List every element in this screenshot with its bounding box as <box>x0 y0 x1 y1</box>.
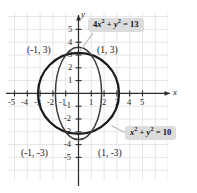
x-tick-label-2: 2 <box>102 97 106 107</box>
y-axis-label: y <box>81 9 85 19</box>
y-tick-label-4: 4 <box>68 37 72 47</box>
x-axis-arrow <box>165 91 171 96</box>
x-tick-label--4: -4 <box>21 97 28 107</box>
callout-circle-plus: + <box>137 127 146 137</box>
y-tick-label--5: -5 <box>64 152 71 162</box>
point-label-lower-right: (1, -3) <box>98 148 122 158</box>
y-tick-label-1: 1 <box>68 75 72 85</box>
x-tick-label--5: -5 <box>8 97 15 107</box>
x-tick-label--3: -3 <box>34 97 41 107</box>
x-tick-label-5: 5 <box>140 97 144 107</box>
callout-circle-equals: = <box>154 127 163 137</box>
x-axis-label: x <box>173 87 177 97</box>
x-tick-label-4: 4 <box>127 97 131 107</box>
callout-ellipse-rhs: 13 <box>130 19 139 29</box>
y-tick-label--3: -3 <box>64 126 71 136</box>
callout-ellipse-plus: + <box>105 19 114 29</box>
y-tick-label--2: -2 <box>64 113 71 123</box>
point-label-upper-right: (1, 3) <box>97 45 118 55</box>
y-tick-label-3: 3 <box>68 49 72 59</box>
callout-ellipse-equation: 4x2 + y2 = 13 <box>88 18 144 32</box>
point-label-upper-left: (-1, 3) <box>27 45 51 55</box>
x-tick-label-3: 3 <box>115 97 119 107</box>
callout-circle-rhs: 10 <box>163 127 172 137</box>
point-label-lower-left: (-1, -3) <box>21 148 48 158</box>
y-tick-label--1: -1 <box>64 100 71 110</box>
y-tick-label-2: 2 <box>68 62 72 72</box>
callout-ellipse-equals: = <box>121 19 130 29</box>
y-tick-label--4: -4 <box>64 139 71 149</box>
y-tick-label-5: 5 <box>68 24 72 34</box>
x-tick-label--2: -2 <box>47 97 54 107</box>
x-tick-label-1: 1 <box>89 97 93 107</box>
callout-circle-equation: x2 + y2 = 10 <box>125 126 176 140</box>
